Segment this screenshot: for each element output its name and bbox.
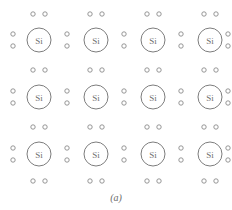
electron-pair-vertical [122, 32, 126, 48]
atom-label: Si [35, 93, 43, 103]
electron-pair-vertical [11, 89, 15, 105]
electron-dot [179, 32, 183, 36]
electron-dot [157, 68, 161, 72]
electron-dot [11, 32, 15, 36]
atom-group: SiSiSiSiSiSiSiSiSiSiSiSi [27, 28, 222, 166]
silicon-atom: Si [141, 28, 165, 52]
electron-dot [88, 125, 92, 129]
electron-pair-horizontal [145, 179, 161, 183]
electron-dot [145, 179, 149, 183]
electron-dot [179, 89, 183, 93]
electron-dot [43, 68, 47, 72]
lattice-diagram: SiSiSiSiSiSiSiSiSiSiSiSi (a) [0, 0, 232, 210]
atom-label: Si [149, 93, 157, 103]
silicon-atom: Si [141, 142, 165, 166]
atom-label: Si [149, 150, 157, 160]
electron-pair-vertical [179, 32, 183, 48]
electron-dot [11, 101, 15, 105]
electron-dot [145, 12, 149, 16]
electron-dot [65, 89, 69, 93]
electron-dot [43, 12, 47, 16]
electron-pair-horizontal [202, 179, 218, 183]
electron-dot [31, 179, 35, 183]
electron-dot [179, 158, 183, 162]
electron-dot [226, 158, 230, 162]
silicon-atom: Si [198, 142, 222, 166]
electron-dot [214, 68, 218, 72]
electron-dot [214, 125, 218, 129]
electron-pair-vertical [226, 89, 230, 105]
electron-dot [157, 125, 161, 129]
electron-dot [31, 68, 35, 72]
electron-dot [100, 125, 104, 129]
electron-dot [226, 32, 230, 36]
electron-pair-horizontal [88, 12, 104, 16]
electron-dot [100, 179, 104, 183]
electron-pair-vertical [226, 32, 230, 48]
silicon-atom: Si [198, 28, 222, 52]
electron-pair-vertical [226, 146, 230, 162]
electron-dot [65, 44, 69, 48]
electron-dot [100, 68, 104, 72]
atom-label: Si [92, 36, 100, 46]
electron-dot [202, 179, 206, 183]
electron-pair-horizontal [145, 125, 161, 129]
electron-pair-vertical [122, 146, 126, 162]
electron-dot [122, 89, 126, 93]
electron-dot [65, 146, 69, 150]
silicon-atom: Si [27, 28, 51, 52]
electron-dot [11, 89, 15, 93]
electron-dot [226, 89, 230, 93]
electron-pair-horizontal [202, 12, 218, 16]
electron-pair-vertical [65, 146, 69, 162]
silicon-atom: Si [198, 85, 222, 109]
electron-dot [214, 12, 218, 16]
electron-pair-horizontal [31, 179, 47, 183]
electron-dot [179, 101, 183, 105]
electron-dot [122, 101, 126, 105]
electron-dot [100, 12, 104, 16]
electron-dot [88, 179, 92, 183]
atom-label: Si [35, 150, 43, 160]
atom-label: Si [149, 36, 157, 46]
electron-pair-horizontal [31, 125, 47, 129]
electron-dot [11, 44, 15, 48]
electron-pair-horizontal [88, 179, 104, 183]
electron-dot [226, 44, 230, 48]
electron-dot [145, 125, 149, 129]
electron-dot [122, 158, 126, 162]
electron-pair-horizontal [202, 125, 218, 129]
silicon-atom: Si [84, 85, 108, 109]
electron-dot [43, 125, 47, 129]
silicon-atom: Si [84, 28, 108, 52]
electron-dot [179, 146, 183, 150]
electron-dot [88, 68, 92, 72]
electron-dot [157, 12, 161, 16]
electron-dot [11, 158, 15, 162]
electron-pair-horizontal [202, 68, 218, 72]
atom-label: Si [206, 150, 214, 160]
electron-pair-vertical [65, 89, 69, 105]
silicon-atom: Si [27, 142, 51, 166]
figure-caption: (a) [110, 192, 122, 204]
electron-dot [31, 125, 35, 129]
electron-pair-vertical [11, 146, 15, 162]
electron-dot [145, 68, 149, 72]
electron-dot [65, 32, 69, 36]
electron-dot [122, 44, 126, 48]
electron-pair-vertical [179, 146, 183, 162]
electron-pair-horizontal [31, 12, 47, 16]
electron-dot [226, 146, 230, 150]
atom-label: Si [206, 36, 214, 46]
electron-pair-vertical [65, 32, 69, 48]
silicon-atom: Si [141, 85, 165, 109]
electron-dot [202, 125, 206, 129]
electron-dot [65, 101, 69, 105]
electron-pair-vertical [122, 89, 126, 105]
silicon-atom: Si [27, 85, 51, 109]
electron-dot [122, 32, 126, 36]
electron-pair-horizontal [88, 68, 104, 72]
silicon-lattice-figure: SiSiSiSiSiSiSiSiSiSiSiSi (a) [0, 0, 232, 210]
electron-pair-horizontal [31, 68, 47, 72]
silicon-atom: Si [84, 142, 108, 166]
